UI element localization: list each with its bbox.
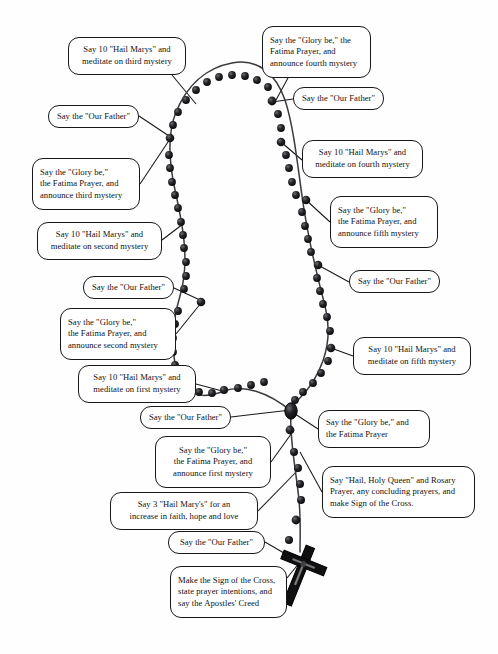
callout-glory-be-fatima-prayer[interactable]: Say the "Glory be," and the Fatima Praye…	[318, 410, 430, 448]
callout-hail-marys-second-mystery[interactable]: Say 10 "Hail Marys" and meditate on seco…	[37, 222, 162, 260]
callout-hail-marys-first-mystery[interactable]: Say 10 "Hail Marys" and meditate on firs…	[78, 365, 196, 403]
callout-line: Say 10 "Hail Marys" and	[310, 147, 415, 159]
callout-line: Say "Hail, Holy Queen" and Rosary	[330, 475, 467, 487]
callout-line: the Fatima Prayer, and	[40, 178, 132, 190]
callout-glory-be-first-mystery[interactable]: Say the "Glory be," the Fatima Prayer, a…	[155, 436, 271, 488]
callout-line: Say the "Glory be," the	[270, 35, 363, 47]
callout-line: Say the "Our Father"	[91, 282, 166, 294]
callout-glory-be-third-mystery[interactable]: Say the "Glory be," the Fatima Prayer, a…	[32, 158, 140, 210]
callout-line: Make the Sign of the Cross,	[178, 575, 279, 587]
callout-sign-of-the-cross-creed[interactable]: Make the Sign of the Cross, state prayer…	[170, 566, 287, 618]
callout-line: Say the "Our Father"	[56, 111, 131, 123]
callout-line: Say the "Our Father"	[148, 412, 223, 424]
callout-line: Say the "Glory be,"	[163, 445, 263, 457]
callout-hail-marys-fifth-mystery[interactable]: Say 10 "Hail Marys" and meditate on fift…	[353, 337, 471, 375]
callout-line: make Sign of the Cross.	[330, 498, 467, 510]
callout-line: Say the "Glory be," and	[326, 417, 422, 429]
callout-line: Say the "Glory be,"	[40, 167, 132, 179]
callout-line: Say the "Glory be,"	[338, 205, 430, 217]
callout-line: Say 10 "Hail Marys" and	[361, 344, 463, 356]
callout-line: Prayer, any concluding prayers, and	[330, 486, 467, 498]
callout-line: announce third mystery	[40, 190, 132, 202]
callout-line: say the Apostles' Creed	[178, 598, 279, 610]
callout-line: meditate on fourth mystery	[310, 159, 415, 171]
callout-line: state prayer intentions, and	[178, 586, 279, 598]
callout-line: meditate on second mystery	[45, 241, 154, 253]
callout-our-father-second[interactable]: Say the "Our Father"	[83, 276, 174, 299]
callout-line: Say the "Our Father"	[301, 93, 376, 105]
callout-line: Say 10 "Hail Marys" and	[45, 229, 154, 241]
callout-line: the Fatima Prayer, and	[163, 456, 263, 468]
callout-our-father-third[interactable]: Say the "Our Father"	[48, 105, 139, 128]
callout-line: Say 10 "Hail Marys" and	[86, 372, 188, 384]
callout-line: announce second mystery	[68, 340, 168, 352]
callout-line: the Fatima Prayer	[326, 429, 422, 441]
callout-hail-marys-three-virtues[interactable]: Say 3 "Hail Mary's" for an increase in f…	[110, 492, 258, 530]
callout-hail-marys-third-mystery[interactable]: Say 10 "Hail Marys" and meditate on thir…	[68, 37, 186, 75]
callout-line: announce fourth mystery	[270, 58, 363, 70]
callout-our-father-fifth[interactable]: Say the "Our Father"	[349, 270, 440, 293]
callout-line: announce fifth mystery	[338, 228, 430, 240]
callout-line: Say the "Our Father"	[357, 276, 432, 288]
rosary-center-medal	[285, 403, 297, 419]
callout-line: meditate on third mystery	[76, 56, 178, 68]
callout-glory-be-fifth-mystery[interactable]: Say the "Glory be," the Fatima Prayer, a…	[330, 196, 438, 248]
callout-line: Say 3 "Hail Mary's" for an	[118, 499, 250, 511]
callout-line: the Fatima Prayer, and	[68, 328, 168, 340]
callout-line: meditate on first mystery	[86, 384, 188, 396]
callout-line: Say the "Glory be,"	[68, 317, 168, 329]
callout-line: increase in faith, hope and love	[118, 511, 250, 523]
callout-line: Say 10 "Hail Marys" and	[76, 44, 178, 56]
callout-line: announce first mystery	[163, 468, 263, 480]
callout-hail-marys-fourth-mystery[interactable]: Say 10 "Hail Marys" and meditate on four…	[302, 140, 423, 178]
callout-glory-be-second-mystery[interactable]: Say the "Glory be," the Fatima Prayer, a…	[60, 308, 176, 360]
callout-line: meditate on fifth mystery	[361, 356, 463, 368]
callout-our-father-opening[interactable]: Say the "Our Father"	[168, 531, 265, 554]
callout-hail-holy-queen[interactable]: Say "Hail, Holy Queen" and Rosary Prayer…	[322, 466, 475, 518]
callout-our-father-first[interactable]: Say the "Our Father"	[140, 406, 231, 429]
pendant-beads	[285, 426, 305, 544]
rosary-beads	[165, 71, 335, 404]
callout-our-father-fourth[interactable]: Say the "Our Father"	[293, 87, 384, 110]
callout-line: the Fatima Prayer, and	[338, 216, 430, 228]
callout-line: Say the "Our Father"	[176, 537, 257, 549]
callout-line: Fatima Prayer, and	[270, 46, 363, 58]
rosary-diagram: Say 10 "Hail Marys" and meditate on thir…	[0, 0, 498, 654]
callout-glory-be-fourth-mystery[interactable]: Say the "Glory be," the Fatima Prayer, a…	[262, 26, 371, 78]
